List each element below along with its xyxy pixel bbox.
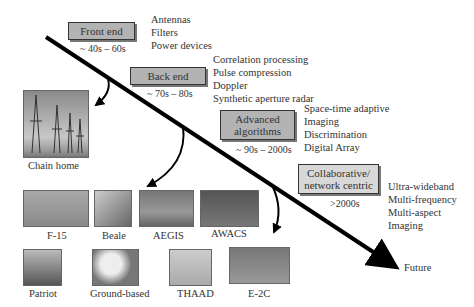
photo-beale bbox=[94, 190, 132, 227]
stage-box-collaborative: Collaborative/ network centric bbox=[298, 164, 379, 194]
list-item: Imaging bbox=[304, 115, 389, 128]
caption-ground-based: Ground-based bbox=[90, 288, 149, 299]
list-item: Discrimination bbox=[304, 128, 389, 141]
list-item: Space-time adaptive bbox=[304, 102, 389, 115]
stage-box-advanced-algorithms: Advanced algorithms bbox=[220, 110, 295, 140]
photo-chain-home bbox=[23, 90, 89, 158]
photo-thaad bbox=[169, 249, 212, 286]
photo-ground-based bbox=[92, 249, 139, 286]
list-item: Doppler bbox=[213, 79, 314, 92]
stage-box-back-end: Back end bbox=[130, 67, 206, 85]
era-collaborative: >2000s bbox=[330, 198, 360, 209]
list-item: Power devices bbox=[151, 39, 212, 52]
list-item: Correlation processing bbox=[213, 53, 314, 66]
caption-f15: F-15 bbox=[47, 230, 67, 241]
caption-e2c: E-2C bbox=[248, 288, 270, 299]
caption-aegis: AEGIS bbox=[153, 230, 184, 241]
components-collaborative: Ultra-wideband Multi-frequency Multi-asp… bbox=[388, 180, 457, 232]
caption-beale: Beale bbox=[102, 230, 126, 241]
era-back-end: ~ 70s – 80s bbox=[147, 88, 193, 99]
branch-arrow-chain-home bbox=[96, 79, 109, 105]
list-item: Pulse compression bbox=[213, 66, 314, 79]
list-item: Multi-aspect bbox=[388, 206, 457, 219]
list-item: Synthetic aperture radar bbox=[213, 92, 314, 105]
list-item: Imaging bbox=[388, 219, 457, 232]
photo-awacs bbox=[200, 190, 259, 227]
components-back-end: Correlation processing Pulse compression… bbox=[213, 53, 314, 105]
radio-towers-icon bbox=[24, 91, 88, 157]
list-item: Filters bbox=[151, 26, 212, 39]
branch-arrow-row1 bbox=[148, 126, 184, 186]
caption-patriot: Patriot bbox=[29, 288, 57, 299]
list-item: Ultra-wideband bbox=[388, 180, 457, 193]
branch-arrow-e2c bbox=[272, 185, 279, 232]
components-advanced-algorithms: Space-time adaptive Imaging Discriminati… bbox=[304, 102, 389, 154]
photo-patriot bbox=[23, 249, 62, 286]
era-front-end: ~ 40s – 60s bbox=[80, 43, 126, 54]
era-advanced-algorithms: ~ 90s – 2000s bbox=[236, 144, 292, 155]
stage-box-front-end: Front end bbox=[68, 22, 135, 40]
radar-evolution-diagram: Front end ~ 40s – 60s Antennas Filters P… bbox=[0, 0, 474, 307]
photo-aegis bbox=[139, 190, 194, 227]
list-item: Digital Array bbox=[304, 141, 389, 154]
future-label: Future bbox=[404, 262, 431, 273]
photo-f15 bbox=[23, 190, 89, 227]
photo-e2c bbox=[229, 247, 290, 284]
list-item: Multi-frequency bbox=[388, 193, 457, 206]
caption-awacs: AWACS bbox=[211, 228, 247, 239]
caption-chain-home: Chain home bbox=[28, 160, 79, 171]
caption-thaad: THAAD bbox=[177, 288, 214, 299]
components-front-end: Antennas Filters Power devices bbox=[151, 13, 212, 52]
list-item: Antennas bbox=[151, 13, 212, 26]
